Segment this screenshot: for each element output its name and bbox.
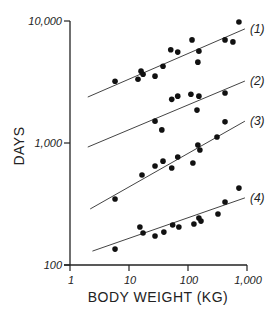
x-axis-title: BODY WEIGHT (KG) [88,289,229,305]
data-point [195,142,201,148]
data-point [159,127,165,133]
data-point [170,222,176,228]
y-tick-label: 100 [44,259,63,271]
series-label-2: (2) [250,74,265,88]
x-tick-label: 1 [68,274,74,286]
data-points [112,19,241,252]
data-point [191,221,197,227]
data-point [112,196,118,202]
data-point [137,224,143,230]
data-point [194,107,200,113]
data-point [196,93,202,99]
x-tick-label: 1,000 [234,274,262,286]
data-point [140,230,146,236]
data-point [169,97,175,103]
data-point [190,160,196,166]
axes: 1001,00010,0001101001,000 [28,15,262,286]
series-label-3: (3) [250,114,265,128]
x-tick-label: 100 [180,274,199,286]
y-tick-label: 1,000 [34,137,62,149]
data-point [198,218,204,224]
data-point [160,158,166,164]
data-point [168,47,174,53]
data-point [139,172,145,178]
data-point [222,119,228,125]
scatter-chart: 1001,00010,0001101001,000 (1)(2)(3)(4) B… [0,0,280,321]
data-point [152,163,158,169]
data-point [236,19,242,25]
series-label-1: (1) [250,22,265,36]
fit-line-4 [92,198,244,251]
data-point [138,68,144,74]
data-point [222,37,228,43]
x-tick-label: 10 [124,274,137,286]
fit-lines [88,29,245,251]
fit-line-2 [88,81,245,147]
data-point [230,39,236,45]
data-point [236,185,242,191]
data-point [160,63,166,69]
fit-line-1 [88,29,245,97]
data-point [188,91,194,97]
data-point [135,76,141,82]
data-point [169,165,175,171]
data-point [175,93,181,99]
data-point [112,78,118,84]
data-point [175,49,181,55]
data-point [195,59,201,65]
data-point [197,147,203,153]
data-point [152,233,158,239]
data-point [196,48,202,54]
y-tick-label: 10,000 [28,15,63,27]
series-labels: (1)(2)(3)(4) [250,22,265,205]
data-point [176,224,182,230]
data-point [152,118,158,124]
y-axis-title: DAYS [11,126,27,165]
fit-line-3 [90,121,245,209]
data-point [215,211,221,217]
data-point [112,246,118,252]
data-point [222,90,228,96]
data-point [152,73,158,79]
data-point [214,134,220,140]
data-point [222,199,228,205]
data-point [161,229,167,235]
series-label-4: (4) [250,191,265,205]
data-point [189,37,195,43]
data-point [175,154,181,160]
